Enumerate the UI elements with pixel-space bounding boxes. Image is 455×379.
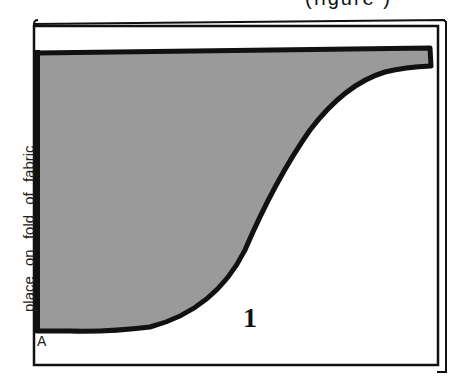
pattern-diagram [0, 0, 455, 379]
fold-instruction-label: place on fold of fabric [20, 145, 37, 312]
point-a-label: A [37, 333, 46, 349]
piece-number-label: 1 [243, 302, 257, 334]
